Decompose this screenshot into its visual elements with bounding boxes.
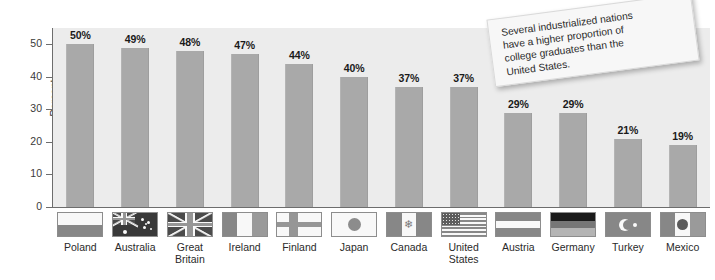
- flag-great-britain-icon: [167, 212, 213, 237]
- country-cell-canada: ❄Canada: [382, 212, 436, 254]
- bar-value-label: 29%: [547, 98, 599, 110]
- y-tick-mark: [46, 44, 52, 45]
- bar-value-label: 50%: [54, 29, 106, 41]
- country-cell-germany: Germany: [546, 212, 600, 254]
- bar-value-label: 44%: [273, 49, 325, 61]
- bar-value-label: 21%: [602, 124, 654, 136]
- bar-austria: [504, 113, 532, 207]
- country-cell-ireland: Ireland: [218, 212, 272, 254]
- y-tick-mark: [46, 207, 52, 208]
- bar-value-label: 19%: [657, 130, 709, 142]
- y-tick-mark: [46, 109, 52, 110]
- bar-canada: [395, 87, 423, 207]
- bar-value-label: 47%: [219, 39, 271, 51]
- flag-mexico-icon: [660, 212, 706, 237]
- country-label: Finland: [272, 242, 326, 254]
- bar-germany: [559, 113, 587, 207]
- country-flag-row: PolandAustraliaGreatBritainIrelandFinlan…: [53, 212, 710, 280]
- country-label: GreatBritain: [163, 242, 217, 266]
- flag-germany-icon: [550, 212, 596, 237]
- flag-ireland-icon: [222, 212, 268, 237]
- bar-great-britain: [176, 51, 204, 207]
- country-label: Canada: [382, 242, 436, 254]
- bar-finland: [285, 64, 313, 207]
- country-cell-great-britain: GreatBritain: [163, 212, 217, 266]
- y-tick-label: 30: [8, 102, 42, 114]
- country-label-line-2: Britain: [163, 254, 217, 266]
- bar-value-label: 49%: [109, 33, 161, 45]
- flag-australia-icon: [112, 212, 158, 237]
- flag-poland-icon: [57, 212, 103, 237]
- country-label: Turkey: [601, 242, 655, 254]
- bar-australia: [121, 48, 149, 207]
- country-label: UnitedStates: [437, 242, 491, 266]
- country-cell-finland: Finland: [272, 212, 326, 254]
- y-tick-label: 50: [8, 37, 42, 49]
- flag-finland-icon: [276, 212, 322, 237]
- bar-value-label: 37%: [383, 72, 435, 84]
- bar-japan: [340, 77, 368, 207]
- country-cell-austria: Austria: [491, 212, 545, 254]
- flag-united-states-icon: [441, 212, 487, 237]
- country-label: Japan: [327, 242, 381, 254]
- bar-turkey: [614, 139, 642, 207]
- flag-canada-icon: ❄: [386, 212, 432, 237]
- country-label: Ireland: [218, 242, 272, 254]
- y-tick-label: 0: [8, 200, 42, 212]
- bar-united-states: [450, 87, 478, 207]
- country-cell-turkey: Turkey: [601, 212, 655, 254]
- country-cell-united-states: UnitedStates: [437, 212, 491, 266]
- country-label: Germany: [546, 242, 600, 254]
- bar-mexico: [669, 145, 697, 207]
- country-cell-japan: Japan: [327, 212, 381, 254]
- flag-japan-icon: [331, 212, 377, 237]
- y-tick-mark: [46, 77, 52, 78]
- chart-figure: Percent 01020304050 50%49%48%47%44%40%37…: [0, 0, 715, 280]
- country-label: Mexico: [656, 242, 710, 254]
- country-cell-poland: Poland: [53, 212, 107, 254]
- y-tick-label: 10: [8, 167, 42, 179]
- bar-value-label: 48%: [164, 36, 216, 48]
- country-cell-australia: Australia: [108, 212, 162, 254]
- bar-ireland: [231, 54, 259, 207]
- y-tick-label: 40: [8, 70, 42, 82]
- bar-value-label: 29%: [492, 98, 544, 110]
- x-axis-line: [52, 207, 710, 208]
- y-tick-mark: [46, 142, 52, 143]
- flag-turkey-icon: [605, 212, 651, 237]
- country-label-line-2: States: [437, 254, 491, 266]
- y-tick-label: 20: [8, 135, 42, 147]
- bar-poland: [66, 44, 94, 207]
- country-label: Australia: [108, 242, 162, 254]
- country-cell-mexico: Mexico: [656, 212, 710, 254]
- bar-value-label: 40%: [328, 62, 380, 74]
- flag-austria-icon: [495, 212, 541, 237]
- country-label: Poland: [53, 242, 107, 254]
- y-tick-mark: [46, 174, 52, 175]
- country-label: Austria: [491, 242, 545, 254]
- bar-value-label: 37%: [438, 72, 490, 84]
